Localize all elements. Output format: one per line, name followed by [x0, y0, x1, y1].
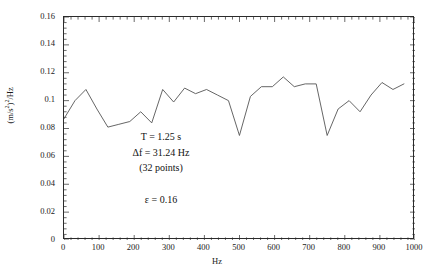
annotation-spacer [86, 176, 236, 192]
y-tick-label: 0.06 [40, 151, 55, 160]
x-tick-label: 700 [302, 243, 315, 252]
annotation-block: T = 1.25 s Δf = 31.24 Hz (32 points) ε =… [86, 129, 236, 207]
plot-frame: T = 1.25 s Δf = 31.24 Hz (32 points) ε =… [63, 16, 414, 239]
y-axis-title: (m/s2)2/Hz [4, 62, 15, 148]
x-tick-label: 0 [61, 243, 65, 252]
x-axis: Hz 01002003004005006007008009001000 [0, 239, 434, 273]
x-tick-label: 100 [92, 243, 105, 252]
y-tick-label: 0.1 [44, 95, 55, 104]
y-tick-label: 0.14 [40, 39, 55, 48]
annotation-period: T = 1.25 s [86, 129, 236, 145]
annotation-epsilon: ε = 0.16 [86, 192, 236, 208]
x-tick-label: 600 [267, 243, 280, 252]
y-axis: (m/s2)2/Hz 00.020.040.060.080.10.120.140… [0, 8, 63, 247]
y-tick-label: 0.08 [40, 123, 55, 132]
y-tick-label: 0.02 [40, 207, 55, 216]
annotation-delta-f: Δf = 31.24 Hz [86, 145, 236, 161]
x-tick-label: 1000 [406, 243, 423, 252]
y-tick-label: 0.04 [40, 179, 55, 188]
chart-page: (m/s2)2/Hz 00.020.040.060.080.10.120.140… [0, 0, 434, 273]
x-tick-label: 300 [162, 243, 175, 252]
x-tick-label: 400 [197, 243, 210, 252]
y-axis-title-text: (m/s2)2/Hz [4, 87, 14, 123]
y-tick-label: 0.16 [40, 12, 55, 21]
x-tick-label: 900 [373, 243, 386, 252]
annotation-points: (32 points) [86, 160, 236, 176]
x-axis-title: Hz [0, 256, 434, 266]
x-tick-label: 500 [232, 243, 245, 252]
x-tick-label: 800 [337, 243, 350, 252]
x-tick-label: 200 [127, 243, 140, 252]
y-tick-label: 0.12 [40, 67, 55, 76]
psd-data-line [64, 77, 404, 136]
